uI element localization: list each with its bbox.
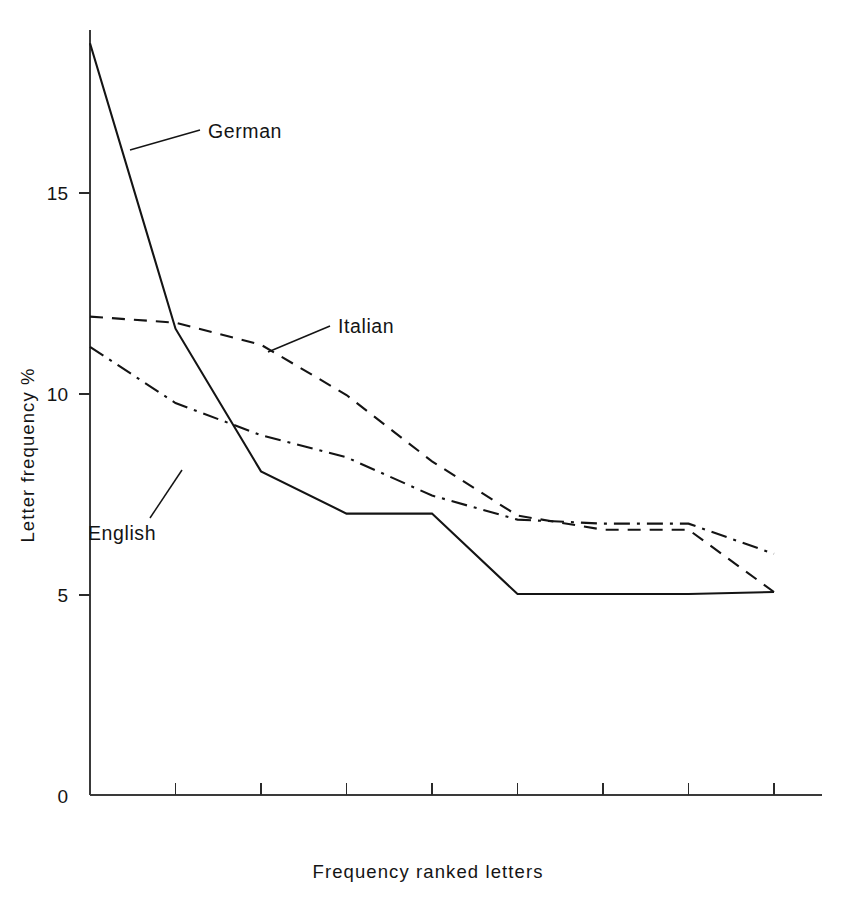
annotation-english: English bbox=[88, 522, 156, 544]
annotation-german: German bbox=[208, 120, 282, 142]
annotation-italian: Italian bbox=[338, 315, 394, 337]
y-tick-label-0: 0 bbox=[57, 786, 68, 807]
series-line-english bbox=[90, 347, 774, 554]
y-tick-label-10: 10 bbox=[47, 384, 68, 405]
y-axis-title: Letter frequency % bbox=[17, 367, 38, 542]
chart-canvas: 15 10 5 0 German Italian English Letter … bbox=[0, 0, 847, 911]
english-leader-line bbox=[150, 470, 182, 518]
series-line-german bbox=[90, 43, 774, 594]
italian-leader-line bbox=[268, 326, 330, 352]
y-tick-label-5: 5 bbox=[57, 585, 68, 606]
line-chart: 15 10 5 0 German Italian English Letter … bbox=[0, 0, 847, 911]
german-leader-line bbox=[130, 130, 200, 150]
y-tick-label-15: 15 bbox=[47, 183, 68, 204]
x-axis-title: Frequency ranked letters bbox=[312, 861, 543, 882]
